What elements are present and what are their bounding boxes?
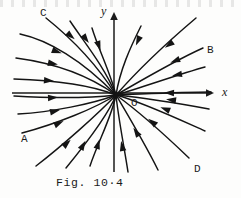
trajectory-curve bbox=[92, 28, 116, 95]
trajectory-label-d: D bbox=[194, 164, 201, 175]
trajectory-curve bbox=[90, 95, 116, 166]
phase-portrait-diagram bbox=[0, 0, 241, 198]
y-axis-arrowhead-icon bbox=[110, 12, 118, 20]
origin-label: O bbox=[131, 98, 138, 109]
flow-arrow-icon bbox=[94, 40, 103, 52]
trajectory-label-c: C bbox=[40, 8, 47, 19]
figure-container: C y B x O A D Fig. 10·4 bbox=[0, 0, 241, 198]
flow-arrow-icon bbox=[118, 140, 126, 151]
x-axis-label: x bbox=[222, 86, 227, 98]
trajectory-curve bbox=[22, 95, 116, 133]
trajectories-upper-left bbox=[14, 18, 116, 95]
x-axis-arrowhead-icon bbox=[206, 89, 214, 97]
trajectory-curve bbox=[46, 18, 116, 95]
flow-arrow-icon bbox=[49, 107, 60, 115]
trajectory-curve bbox=[14, 95, 116, 97]
trajectory-curve bbox=[116, 95, 189, 158]
trajectory-label-b: B bbox=[207, 45, 214, 56]
trajectories-lower-left bbox=[14, 94, 116, 168]
y-axis-label: y bbox=[101, 5, 106, 17]
trajectory-curve bbox=[116, 95, 209, 109]
flow-arrow-icon bbox=[44, 77, 55, 84]
flow-arrow-icon bbox=[171, 71, 182, 79]
trajectories-upper-right bbox=[116, 18, 205, 95]
figure-caption: Fig. 10·4 bbox=[56, 176, 124, 189]
flow-arrow-icon bbox=[146, 116, 158, 127]
flow-arrow-icon bbox=[94, 138, 103, 150]
flow-arrow-icon bbox=[48, 94, 58, 101]
trajectory-label-a: A bbox=[21, 134, 28, 145]
flow-arrow-icon bbox=[164, 89, 174, 96]
